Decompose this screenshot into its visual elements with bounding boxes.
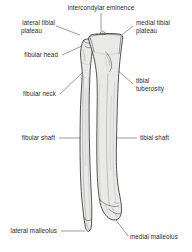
leader-medial-tibial-plateau bbox=[122, 26, 133, 35]
intercondylar-eminence-shading bbox=[101, 33, 104, 34]
label-intercondylar-eminence: intercondylar eminence bbox=[68, 4, 135, 12]
label-tibial-tuberosity-line2: tuberosity bbox=[136, 85, 165, 93]
leader-lateral-tibial-plateau bbox=[56, 26, 80, 35]
anatomy-figure-tibia-fibula: intercondylar eminence lateral tibial pl… bbox=[0, 0, 192, 252]
label-fibular-head: fibular head bbox=[24, 51, 58, 58]
fibula-bone bbox=[80, 39, 93, 231]
label-medial-malleolus: medial malleolus bbox=[130, 233, 178, 240]
label-lateral-tibial-plateau-line1: lateral tibial bbox=[22, 19, 55, 26]
tibia-bone bbox=[89, 31, 123, 220]
label-fibular-neck: fibular neck bbox=[23, 90, 57, 97]
leader-fibular-neck bbox=[60, 72, 83, 94]
label-lateral-tibial-plateau-line2: plateau bbox=[21, 27, 43, 35]
label-tibial-tuberosity-line1: tibial bbox=[136, 77, 149, 84]
label-tibial-shaft: tibial shaft bbox=[140, 134, 169, 141]
leader-medial-malleolus bbox=[116, 220, 128, 236]
bone-illustration bbox=[80, 31, 123, 231]
label-fibular-shaft: fibular shaft bbox=[22, 134, 56, 141]
tibia-outline bbox=[89, 34, 123, 220]
label-medial-tibial-plateau-line1: medial tibial bbox=[136, 19, 170, 26]
fibula-outline bbox=[80, 39, 93, 231]
label-lateral-malleolus: lateral malleolus bbox=[10, 227, 57, 234]
label-medial-tibial-plateau-line2: plateau bbox=[136, 27, 158, 35]
